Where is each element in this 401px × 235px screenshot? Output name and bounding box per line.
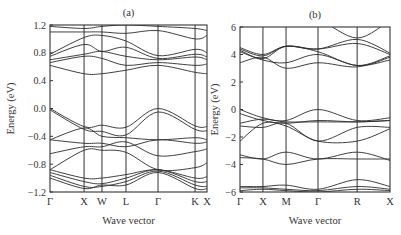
band-line-vb2 [50,110,207,136]
kpoint-label: Γ [315,196,321,207]
panel-a-chart: 1.20.80.40.0−0.4−0.8−1.2ΓXWLΓKXWave vect… [5,7,211,226]
y-tick-label: −0.8 [28,159,46,170]
y-tick-label: 2 [231,77,236,88]
panel-b-chart: 6420−2−4−6ΓXMΓRXWave vectorEnergy (eV)(b… [209,9,394,226]
plot-frame [50,25,207,192]
y-tick-label: −2 [225,132,236,143]
y-tick-label: 4 [231,49,236,60]
y-tick-label: −1.2 [28,187,46,198]
band-line-vb1 [50,108,207,128]
panel-title: (b) [309,9,322,21]
kpoint-label: M [281,196,291,207]
kpoint-label: L [123,196,129,207]
kpoint-label: X [386,196,394,207]
band-line-vb5 [50,142,207,157]
band-line-cb7 [50,25,207,31]
y-tick-label: 0.0 [34,103,47,114]
band-structure-figure: 1.20.80.40.0−0.4−0.8−1.2ΓXWLΓKXWave vect… [0,0,401,235]
kpoint-label: X [80,196,88,207]
x-axis-label: Wave vector [289,215,342,226]
kpoint-label: W [97,196,107,207]
y-tick-label: 6 [231,22,236,33]
y-axis-label: Energy (eV) [209,83,221,135]
y-axis-label: Energy (eV) [5,82,17,134]
kpoint-label: X [203,196,211,207]
kpoint-label: X [259,196,267,207]
y-tick-label: 0.4 [34,75,47,86]
y-tick-label: 0.8 [34,47,47,58]
band-line-vb8 [50,170,207,184]
band-line-cb5 [50,35,207,56]
band-line-cb1 [50,65,207,74]
band-lines [50,25,207,190]
panel-title: (a) [123,7,135,19]
y-tick-label: 0 [231,104,236,115]
kpoint-label: Γ [47,196,53,207]
band-line-cb6 [50,30,207,39]
band-line-vb6 [50,149,207,171]
kpoint-label: Γ [237,196,243,207]
y-tick-label: −4 [225,159,236,170]
x-axis-label: Wave vector [102,215,155,226]
y-tick-label: −6 [225,187,236,198]
kpoint-label: Γ [155,196,161,207]
y-tick-label: −0.4 [28,131,46,142]
kpoint-label: K [191,196,199,207]
band-line-vb4 [50,140,207,147]
kpoint-label: R [354,196,361,207]
y-tick-label: 1.2 [34,20,47,31]
